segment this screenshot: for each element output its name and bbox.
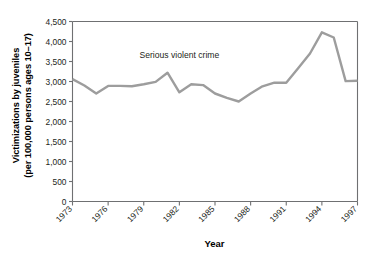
chart-figure: Victimizations by juveniles (per 100,000… xyxy=(0,0,382,262)
line-chart-plot: 05001,0001,5002,0002,5003,0003,5004,0004… xyxy=(0,0,382,262)
y-axis-tick-label: 1,000 xyxy=(46,157,67,167)
y-axis-tick-labels: 05001,0001,5002,0002,5003,0003,5004,0004… xyxy=(46,17,67,207)
x-axis-tick-label: 1988 xyxy=(232,204,252,224)
y-axis-tick-label: 3,000 xyxy=(46,77,67,87)
x-axis-tick-label: 1991 xyxy=(267,204,287,224)
series-line-serious-violent-crime xyxy=(73,32,358,101)
y-axis-tick-label: 4,000 xyxy=(46,37,67,47)
x-axis-tick-labels: 197319761979198219851988199119941997 xyxy=(54,204,359,224)
y-axis-tick-label: 1,500 xyxy=(46,137,67,147)
x-axis-tick-label: 1985 xyxy=(196,204,216,224)
y-axis-tick-label: 500 xyxy=(53,177,67,187)
x-axis-title: Year xyxy=(72,238,357,249)
series-annotation-label: Serious violent crime xyxy=(139,50,219,60)
x-axis-tick-label: 1982 xyxy=(161,204,181,224)
y-axis-tick-label: 4,500 xyxy=(46,17,67,27)
x-axis-tick-label: 1973 xyxy=(54,204,74,224)
y-axis-tick-label: 3,500 xyxy=(46,57,67,67)
y-axis-tick-label: 2,500 xyxy=(46,97,67,107)
x-axis-tick-label: 1979 xyxy=(125,204,145,224)
x-axis-tick-label: 1994 xyxy=(303,204,323,224)
x-axis-tick-label: 1997 xyxy=(339,204,359,224)
y-axis-tick-label: 2,000 xyxy=(46,117,67,127)
x-axis-tick-label: 1976 xyxy=(89,204,109,224)
